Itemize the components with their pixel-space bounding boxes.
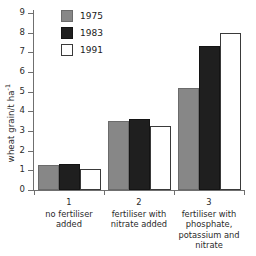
- y-axis-tick-label: 8: [8, 28, 25, 37]
- y-axis-tick-label: 1: [8, 165, 25, 174]
- figure-caption: Yieldwith iuntil sbe: [150, 2, 256, 46]
- legend-item-1983[interactable]: 1983: [61, 24, 131, 41]
- y-axis-tick: [28, 151, 33, 152]
- category-description-line: potassium and: [167, 230, 251, 241]
- y-axis-tick: [28, 111, 33, 112]
- y-axis-line: [33, 10, 34, 191]
- y-axis-tick: [28, 92, 33, 93]
- y-axis-tick: [28, 52, 33, 53]
- bar-1983-group-1: [59, 164, 80, 190]
- legend-swatch-1983: [61, 27, 73, 39]
- bar-1983-group-3: [199, 46, 220, 190]
- y-axis-tick: [28, 33, 33, 34]
- legend-item-1975[interactable]: 1975: [61, 7, 131, 24]
- y-axis-tick-label: 7: [8, 47, 25, 56]
- bar-1975-group-3: [178, 88, 199, 190]
- y-axis-tick-label: 6: [8, 67, 25, 76]
- y-axis-tick-label: 3: [8, 126, 25, 135]
- caption-line: be: [150, 35, 256, 46]
- bar-1975-group-1: [38, 165, 59, 190]
- x-axis-tick: [174, 190, 175, 195]
- legend: 197519831991: [61, 7, 131, 58]
- x-axis-tick: [244, 190, 245, 195]
- category-number: 3: [167, 197, 251, 208]
- caption-line: until s: [150, 24, 256, 35]
- legend-swatch-1991: [61, 44, 73, 56]
- y-axis-tick-label: 0: [8, 185, 25, 194]
- legend-swatch-1975: [61, 10, 73, 22]
- bar-1975-group-2: [108, 121, 129, 190]
- y-axis-tick: [28, 131, 33, 132]
- legend-label-1983: 1983: [80, 28, 103, 38]
- y-axis-tick-label: 9: [8, 8, 25, 17]
- y-axis-tick-label: 4: [8, 106, 25, 115]
- bar-1991-group-3: [220, 33, 241, 190]
- x-axis-line: [33, 190, 244, 191]
- y-axis-tick: [28, 13, 33, 14]
- y-axis-tick-label: 5: [8, 87, 25, 96]
- x-axis-tick: [104, 190, 105, 195]
- bar-1983-group-2: [129, 119, 150, 190]
- y-axis-tick-label: 2: [8, 146, 25, 155]
- legend-label-1991: 1991: [80, 45, 103, 55]
- bar-1991-group-2: [150, 126, 171, 190]
- caption-line: with i: [150, 13, 256, 24]
- category-description-line: fertiliser with: [167, 209, 251, 220]
- bar-chart-figure: wheat grain/t ha-1 0123456789 1no fertil…: [0, 0, 256, 256]
- caption-line: Yield: [150, 2, 256, 13]
- y-axis-tick: [28, 72, 33, 73]
- category-description-line: nitrate: [167, 240, 251, 251]
- x-axis-category-label-3: 3fertiliser withphosphate,potassium andn…: [167, 197, 251, 251]
- y-axis-tick: [28, 190, 33, 191]
- x-axis-tick: [34, 190, 35, 195]
- bar-1991-group-1: [80, 169, 101, 190]
- legend-label-1975: 1975: [80, 11, 103, 21]
- y-axis-tick: [28, 170, 33, 171]
- legend-item-1991[interactable]: 1991: [61, 41, 131, 58]
- category-description-line: phosphate,: [167, 219, 251, 230]
